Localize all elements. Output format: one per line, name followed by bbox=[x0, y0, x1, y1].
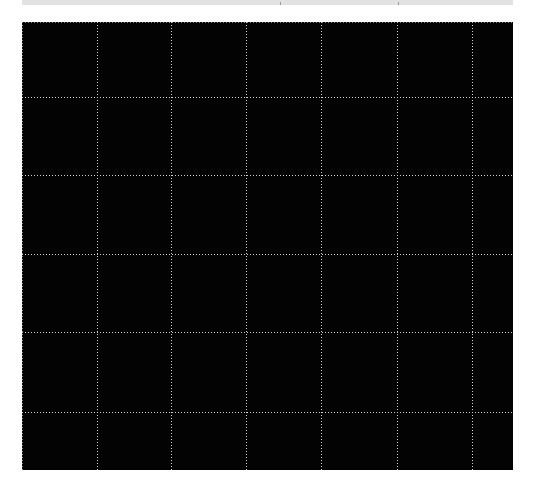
grid-horizontal-line bbox=[22, 254, 513, 255]
image-canvas[interactable] bbox=[22, 22, 513, 470]
grid-vertical-line bbox=[171, 22, 172, 470]
grid-horizontal-line bbox=[22, 175, 513, 176]
grid-vertical-line bbox=[321, 22, 322, 470]
grid-horizontal-line bbox=[22, 412, 513, 413]
grid-horizontal-line bbox=[22, 332, 513, 333]
grid-horizontal-line bbox=[22, 97, 513, 98]
grid-vertical-line bbox=[397, 22, 398, 470]
ruler-tick bbox=[398, 2, 399, 5]
top-ruler-strip bbox=[22, 0, 513, 5]
canvas-left-edge bbox=[22, 22, 23, 470]
ruler-tick bbox=[280, 2, 281, 5]
grid-vertical-line bbox=[472, 22, 473, 470]
grid-vertical-line bbox=[97, 22, 98, 470]
grid-vertical-line bbox=[246, 22, 247, 470]
canvas-top-edge bbox=[22, 22, 513, 23]
